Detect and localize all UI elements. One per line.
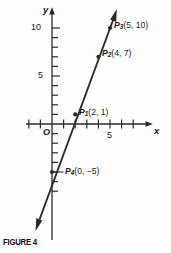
- point-label-p4-coords: (0, −5): [74, 166, 99, 176]
- point-label-p1-coords: (2, 1): [88, 107, 108, 117]
- figure-caption: FIGURE 4: [3, 236, 37, 247]
- point-label-p2-coords: (4, 7): [111, 48, 131, 58]
- point-marker-p2: [96, 55, 100, 59]
- coordinate-plane: [0, 0, 171, 253]
- point-label-p2: P2(4, 7): [102, 49, 131, 59]
- point-marker-p4: [50, 170, 54, 174]
- point-label-p3-coords: (5, 10): [123, 20, 148, 30]
- point-marker-p1: [73, 112, 77, 116]
- point-label-p1: P1(2, 1): [79, 108, 108, 118]
- y-tick-label-5: 5: [38, 71, 43, 80]
- line-series-group: [36, 9, 117, 231]
- origin-label: O: [43, 128, 50, 137]
- figure-container: y x O 10 5 5 P3(5, 10) P2(4, 7) P1(2, 1)…: [0, 0, 171, 253]
- point-label-p3: P3(5, 10): [114, 21, 148, 31]
- line-arrow-down-icon: [36, 218, 43, 231]
- point-marker-p3: [108, 26, 112, 30]
- x-axis-label: x: [154, 126, 159, 136]
- x-axis-arrow-icon: [146, 121, 154, 127]
- point-label-p4: P4(0, −5): [65, 167, 99, 177]
- y-axis-arrow-icon: [49, 7, 55, 15]
- y-tick-label-10: 10: [31, 23, 41, 32]
- y-axis-label: y: [43, 5, 48, 15]
- x-tick-label-5: 5: [107, 131, 112, 140]
